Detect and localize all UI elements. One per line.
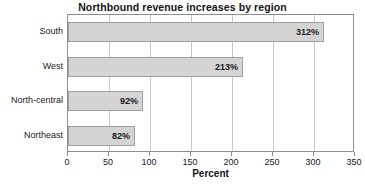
x-axis-tick-label: 200 — [223, 157, 238, 167]
bar-band: 92% — [68, 84, 353, 119]
bar-band: 312% — [68, 15, 353, 50]
bar[interactable]: 312% — [68, 22, 324, 42]
x-axis-tick-label: 150 — [182, 157, 197, 167]
x-axis-tick-label: 50 — [103, 157, 113, 167]
x-axis-tick — [231, 152, 232, 156]
bars-layer: 312%213%92%82% — [68, 15, 353, 151]
bar-value-label: 213% — [215, 62, 242, 72]
bar-chart: Northbound revenue increases by region S… — [0, 0, 365, 184]
bar-value-label: 82% — [112, 131, 134, 141]
x-axis-tick — [108, 152, 109, 156]
category-label: Northeast — [0, 130, 63, 140]
category-label: South — [0, 26, 63, 36]
bar-band: 82% — [68, 119, 353, 154]
bar[interactable]: 213% — [68, 57, 243, 77]
x-axis-tick-label: 0 — [64, 157, 69, 167]
category-label: North-central — [0, 95, 63, 105]
category-label: West — [0, 61, 63, 71]
category-axis-labels: SouthWestNorth-centralNortheast — [0, 14, 63, 152]
bar[interactable]: 82% — [68, 126, 135, 146]
bar-band: 213% — [68, 50, 353, 85]
plot-area: 312%213%92%82% — [67, 14, 354, 152]
x-axis-tick — [149, 152, 150, 156]
chart-title: Northbound revenue increases by region — [0, 0, 365, 14]
x-axis-tick — [313, 152, 314, 156]
bar-value-label: 312% — [296, 27, 323, 37]
bar[interactable]: 92% — [68, 91, 143, 111]
x-axis-tick — [67, 152, 68, 156]
x-axis-tick — [272, 152, 273, 156]
bar-value-label: 92% — [120, 96, 142, 106]
x-axis-tick-label: 100 — [141, 157, 156, 167]
x-axis-tick-label: 250 — [264, 157, 279, 167]
x-axis-tick — [354, 152, 355, 156]
x-axis-tick-label: 300 — [305, 157, 320, 167]
x-axis-tick-label: 350 — [346, 157, 361, 167]
x-axis-tick — [190, 152, 191, 156]
x-axis-title: Percent — [67, 168, 354, 179]
